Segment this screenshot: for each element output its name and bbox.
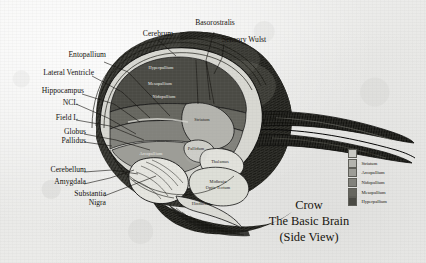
legend-row-arcopallium: Arcopallium bbox=[348, 168, 387, 178]
label-mesopallium: Mesopallium bbox=[130, 82, 190, 86]
legend-label-hyperpallium: Hyperpallium bbox=[361, 199, 387, 204]
label-nidopallium: Nidopallium bbox=[134, 95, 194, 99]
legend-label-arcopallium: Arcopallium bbox=[361, 170, 384, 175]
label-field-l: Field L bbox=[0, 114, 78, 122]
legend-row-hyperpallium: Hyperpallium bbox=[348, 197, 387, 207]
label-arcopallium: Arcopallium bbox=[123, 152, 179, 156]
legend-swatch-hyperpallium bbox=[348, 197, 357, 206]
legend-swatch-pallidum bbox=[348, 149, 357, 158]
label-amygdala: Amygdala bbox=[0, 178, 86, 186]
legend-label-pallidum: Pallidum bbox=[361, 151, 378, 156]
label-basorostralis: Basorostralis bbox=[176, 19, 254, 27]
label-optic-tectum: Optic Tectum bbox=[190, 186, 246, 190]
legend-row-pallidum: Pallidum bbox=[348, 149, 387, 159]
legend-swatch-nidopallium bbox=[348, 178, 357, 187]
label-pallidus: Pallidus bbox=[0, 137, 86, 145]
label-nigra: Nigra bbox=[0, 199, 106, 207]
legend-swatch-mesopallium bbox=[348, 188, 357, 197]
label-hyperpallium: Hyperpallium bbox=[131, 66, 191, 70]
label-midbrain: Midbrain bbox=[194, 180, 242, 184]
legend-label-nidopallium: Nidopallium bbox=[361, 180, 384, 185]
label-lateral-ventricle: Lateral Ventricle bbox=[0, 69, 94, 77]
title-line-main: The Basic Brain bbox=[250, 214, 368, 230]
label-thalamus: Thalamus bbox=[196, 160, 244, 164]
region-legend: Pallidum Striatum Arcopallium Nidopalliu… bbox=[348, 149, 387, 207]
label-cerebellum: Cerebellum bbox=[0, 166, 86, 174]
label-hindbrain: Hindbrain bbox=[176, 202, 226, 206]
figure-canvas: Cerebrum Basorostralis Sensory Wulst Ent… bbox=[0, 0, 426, 263]
label-entopallium: Entopallium bbox=[0, 51, 106, 59]
legend-swatch-striatum bbox=[348, 159, 357, 168]
label-hippocampus: Hippocampus bbox=[0, 87, 84, 95]
label-globus: Globus bbox=[0, 128, 86, 136]
legend-swatch-arcopallium bbox=[348, 168, 357, 177]
label-cerebrum: Cerebrum bbox=[122, 30, 194, 38]
label-striatum: Striatum bbox=[178, 118, 226, 122]
legend-row-striatum: Striatum bbox=[348, 159, 387, 169]
title-line-view: (Side View) bbox=[250, 230, 368, 246]
legend-row-nidopallium: Nidopallium bbox=[348, 178, 387, 188]
label-sensory-wulst: Sensory Wulst bbox=[222, 36, 266, 44]
legend-label-mesopallium: Mesopallium bbox=[361, 190, 385, 195]
label-ncl: NCL bbox=[0, 99, 78, 107]
label-pallidum: Pallidum bbox=[174, 147, 218, 151]
legend-label-striatum: Striatum bbox=[361, 161, 377, 166]
label-substantia: Substantia bbox=[0, 190, 106, 198]
legend-row-mesopallium: Mesopallium bbox=[348, 187, 387, 197]
